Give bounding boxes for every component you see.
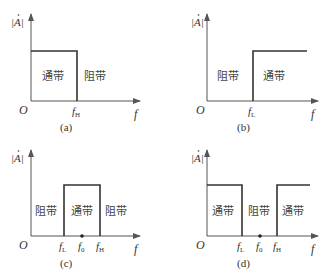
tick-f0: f0 [78,240,85,254]
panel-caption: (a) [60,121,73,134]
band-label-stopband: 阻带 [84,70,106,83]
center-frequency-dot-icon [80,234,84,238]
panel-c-bandpass: |A| O f fL f0 fH 阻带 通带 阻带 (c) [11,150,140,270]
band-label-passband: 通带 [212,205,234,218]
tick-fH: fH [96,240,104,254]
origin-label: O [196,103,205,117]
band-label-passband: 通带 [282,205,304,218]
center-frequency-dot-icon [258,234,262,238]
dot-accent-icon [18,150,20,152]
origin-label: O [19,103,28,117]
dot-accent-icon [198,14,200,16]
band-label-stopband: 阻带 [105,205,127,218]
a-dot-accents [18,14,200,152]
origin-label: O [19,238,28,252]
panel-caption: (b) [237,121,250,134]
y-axis-label: |A| [191,16,204,28]
panel-b-highpass: |A| O f fL 阻带 通带 (b) [191,14,318,134]
x-axis-label: f [311,107,316,121]
tick-fL: fL [248,105,255,119]
origin-label: O [196,238,205,252]
band-label-stopband: 阻带 [217,70,239,83]
panel-caption: (d) [237,257,250,270]
y-axis-label: |A| [191,152,204,164]
tick-fH: fH [72,105,80,119]
band-label-stopband: 阻带 [248,205,270,218]
x-axis-label: f [311,242,316,256]
y-axis-label: |A| [11,16,24,28]
panel-d-bandstop: |A| O f fL f0 fH 通带 阻带 通带 (d) [191,150,318,270]
band-label-passband: 通带 [263,70,285,83]
tick-f0: f0 [256,240,263,254]
x-axis-label: f [134,107,139,121]
panel-caption: (c) [60,257,73,270]
x-axis-label: f [134,242,139,256]
dot-accent-icon [198,150,200,152]
band-label-stopband: 阻带 [35,205,57,218]
panel-a-lowpass: |A| O f fH 通带 阻带 (a) [11,14,140,134]
tick-fL: fL [237,240,244,254]
filter-response-figure: |A| O f fH 通带 阻带 (a) |A| O f fL 阻带 通带 (b… [0,0,328,275]
dot-accent-icon [18,14,20,16]
y-axis-label: |A| [11,152,24,164]
band-label-passband: 通带 [71,205,93,218]
tick-fH: fH [273,240,281,254]
tick-fL: fL [59,240,66,254]
band-label-passband: 通带 [42,70,64,83]
